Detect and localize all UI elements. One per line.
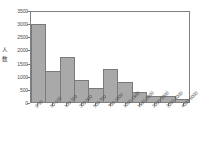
y-axis-tick-labels: 0500100015002000250030003500 <box>8 11 28 103</box>
bar <box>31 24 46 102</box>
x-axis-tick-labels: 0-5050-100100-300300-500500-700700-10001… <box>30 106 190 144</box>
plot-area <box>30 11 190 103</box>
histogram-chart: 人 数 0500100015002000250030003500 0-5050-… <box>0 0 205 144</box>
y-axis-tick-mark <box>27 103 30 104</box>
x-axis-tick-label: 0-50 <box>35 100 44 109</box>
bars-container <box>31 12 189 102</box>
